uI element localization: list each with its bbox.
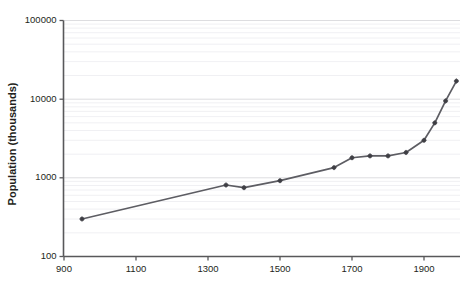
x-tick-label: 1700	[341, 263, 362, 274]
population-line-chart: 100100010000100000 900110013001500170019…	[0, 0, 469, 288]
series-markers	[79, 78, 459, 221]
x-tick-label: 900	[56, 263, 72, 274]
x-tick-label: 1100	[126, 263, 146, 274]
y-tick-labels: 100100010000100000	[25, 14, 57, 261]
y-tick-label: 100	[41, 250, 57, 261]
data-line	[82, 81, 456, 219]
data-point	[79, 216, 84, 221]
data-point	[277, 178, 282, 183]
chart-container: 100100010000100000 900110013001500170019…	[0, 0, 469, 288]
y-tick-label: 100000	[25, 14, 57, 25]
axes	[64, 21, 461, 257]
x-tick-label: 1500	[269, 263, 290, 274]
x-tick-label: 1900	[413, 263, 434, 274]
x-tick-label: 1300	[197, 263, 218, 274]
data-point	[223, 182, 228, 187]
y-tick-label: 10000	[30, 93, 56, 104]
series-line	[82, 81, 456, 219]
x-tick-labels: 90011001300150017001900	[56, 263, 435, 274]
y-axis-title: Population (thousands)	[6, 82, 18, 205]
major-gridlines	[64, 21, 461, 257]
y-tick-label: 1000	[35, 171, 56, 182]
minor-gridlines	[64, 24, 461, 233]
